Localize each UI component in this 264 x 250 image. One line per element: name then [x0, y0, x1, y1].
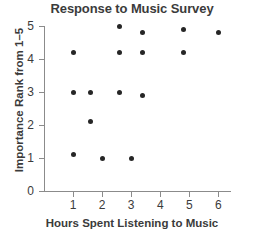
- data-point: [100, 156, 105, 161]
- x-tick-4: [160, 192, 161, 197]
- x-tick-label-5: 5: [180, 199, 198, 211]
- y-tick-3: [39, 92, 44, 93]
- x-tick-label-2: 2: [93, 199, 111, 211]
- data-point: [117, 50, 122, 55]
- y-tick-label-3: 3: [16, 86, 34, 98]
- data-point: [71, 90, 76, 95]
- y-tick-4: [39, 59, 44, 60]
- x-axis-line: [44, 191, 231, 192]
- data-point: [117, 24, 122, 29]
- data-point: [117, 90, 122, 95]
- x-tick-label-4: 4: [151, 199, 169, 211]
- x-axis-label: Hours Spent Listening to Music: [0, 217, 264, 229]
- x-tick-label-3: 3: [122, 199, 140, 211]
- x-tick-3: [131, 192, 132, 197]
- data-point: [129, 156, 134, 161]
- y-tick-label-4: 4: [16, 53, 34, 65]
- x-tick-label-1: 1: [64, 199, 82, 211]
- y-tick-label-2: 2: [16, 119, 34, 131]
- y-tick-label-5: 5: [16, 20, 34, 32]
- y-tick-0: [39, 191, 44, 192]
- y-tick-label-1: 1: [16, 152, 34, 164]
- y-tick-2: [39, 125, 44, 126]
- x-tick-6: [218, 192, 219, 197]
- scatter-plot-figure: Response to Music Survey Importance Rank…: [0, 0, 264, 250]
- y-tick-5: [39, 26, 44, 27]
- data-point: [71, 152, 76, 157]
- x-tick-label-6: 6: [209, 199, 227, 211]
- data-point: [216, 30, 221, 35]
- x-tick-2: [102, 192, 103, 197]
- data-point: [88, 90, 93, 95]
- y-tick-1: [39, 158, 44, 159]
- x-tick-5: [189, 192, 190, 197]
- data-point: [71, 50, 76, 55]
- chart-title: Response to Music Survey: [0, 1, 264, 16]
- data-point: [181, 50, 186, 55]
- x-tick-1: [73, 192, 74, 197]
- y-tick-label-0: 0: [16, 185, 34, 197]
- data-point: [181, 27, 186, 32]
